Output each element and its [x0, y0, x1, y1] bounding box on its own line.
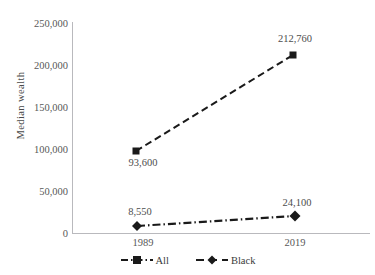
marker-black-2019 — [290, 211, 301, 222]
data-label-all-1989: 93,600 — [129, 157, 158, 168]
legend-label-all: All — [156, 255, 169, 266]
legend-label-black: Black — [231, 255, 256, 266]
y-tick-50000: 50,000 — [0, 186, 68, 197]
marker-black-1989 — [132, 221, 142, 231]
x-axis-line — [72, 233, 370, 234]
series-black-line — [137, 216, 295, 226]
y-tick-150000: 150,000 — [0, 102, 68, 113]
data-label-black-2019: 24,100 — [283, 197, 312, 208]
marker-all-1989 — [133, 148, 140, 155]
chart-container: Median wealth 250,000 200,000 150,000 10… — [0, 0, 375, 275]
series-all-line — [136, 55, 293, 151]
x-tick-1989: 1989 — [108, 237, 178, 248]
legend-item-all[interactable]: All — [120, 254, 169, 266]
y-tick-0: 0 — [0, 228, 68, 239]
y-tick-250000: 250,000 — [0, 18, 68, 29]
cropped-title-remnant — [0, 0, 375, 2]
y-axis-line — [72, 22, 73, 234]
y-tick-100000: 100,000 — [0, 144, 68, 155]
data-label-all-2019: 212,760 — [278, 33, 312, 44]
chart-legend: All Black — [0, 254, 375, 266]
marker-all-2019 — [290, 52, 297, 59]
legend-diamond-marker-icon — [195, 254, 229, 266]
y-tick-200000: 200,000 — [0, 60, 68, 71]
legend-item-black[interactable]: Black — [195, 254, 256, 266]
data-label-black-1989: 8,550 — [128, 206, 152, 217]
legend-square-marker-icon — [120, 254, 154, 266]
x-tick-2019: 2019 — [260, 237, 330, 248]
